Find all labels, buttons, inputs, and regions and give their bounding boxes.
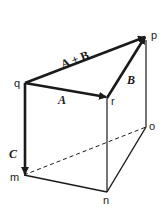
vertex-label-r: r xyxy=(111,95,115,107)
edge-m-n xyxy=(24,175,107,192)
edge-n-o xyxy=(107,127,146,192)
vector-b xyxy=(107,37,145,98)
vertex-label-o: o xyxy=(149,120,155,132)
edge-m-o-dashed xyxy=(24,127,146,175)
vertex-label-n: n xyxy=(103,194,109,206)
vertex-label-q: q xyxy=(14,77,20,89)
vector-label-a: A xyxy=(57,93,66,107)
vertex-label-m: m xyxy=(10,171,19,183)
vector-label-b: B xyxy=(126,73,135,87)
vector-diagram: q p r m n o A + B A B C xyxy=(0,0,166,214)
vector-label-a-plus-b: A + B xyxy=(59,48,91,71)
vertex-label-p: p xyxy=(151,29,157,41)
vector-label-c: C xyxy=(9,147,18,161)
